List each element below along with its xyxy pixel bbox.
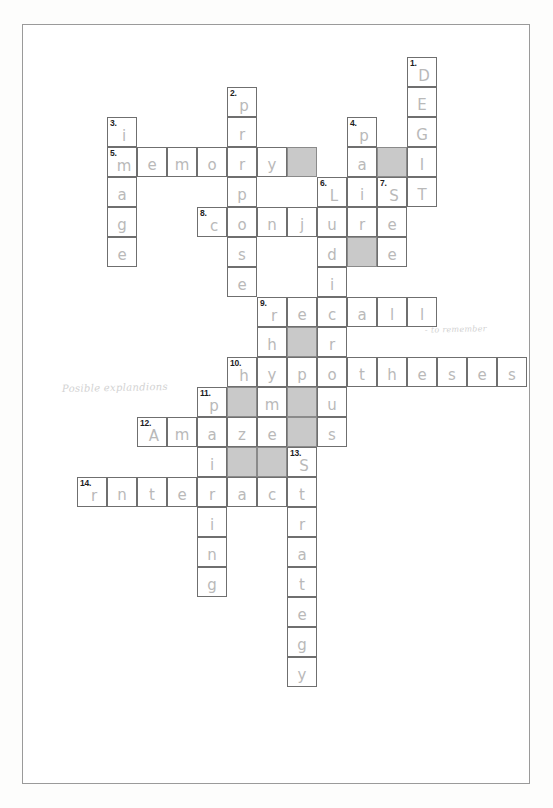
cell-letter: i bbox=[198, 508, 226, 536]
crossword-cell[interactable]: y bbox=[287, 657, 317, 687]
crossword-cell[interactable]: 2.p bbox=[227, 87, 257, 117]
crossword-cell[interactable]: a bbox=[227, 477, 257, 507]
crossword-cell[interactable]: 1.D bbox=[407, 57, 437, 87]
crossword-cell[interactable]: 11.p bbox=[197, 387, 227, 417]
crossword-cell[interactable]: s bbox=[497, 357, 527, 387]
cell-letter: r bbox=[78, 478, 106, 506]
cell-letter: g bbox=[288, 628, 316, 656]
crossword-cell[interactable]: 5.m bbox=[107, 147, 137, 177]
crossword-cell[interactable]: 12.A bbox=[137, 417, 167, 447]
crossword-cell[interactable]: s bbox=[317, 417, 347, 447]
crossword-cell[interactable]: a bbox=[107, 177, 137, 207]
crossword-cell[interactable]: 6.L bbox=[317, 177, 347, 207]
crossword-cell[interactable]: e bbox=[287, 597, 317, 627]
crossword-cell[interactable]: a bbox=[347, 297, 377, 327]
crossword-cell[interactable]: r bbox=[197, 477, 227, 507]
crossword-cell[interactable]: h bbox=[377, 357, 407, 387]
crossword-cell[interactable]: 7.S bbox=[377, 177, 407, 207]
crossword-cell[interactable]: I bbox=[407, 147, 437, 177]
crossword-cell[interactable]: e bbox=[467, 357, 497, 387]
crossword-cell[interactable]: u bbox=[317, 207, 347, 237]
cell-letter: h bbox=[378, 358, 406, 386]
crossword-cell[interactable]: 10.h bbox=[227, 357, 257, 387]
cell-letter: p bbox=[228, 178, 256, 206]
crossword-cell[interactable]: 14.r bbox=[77, 477, 107, 507]
crossword-cell[interactable]: r bbox=[317, 327, 347, 357]
crossword-cell[interactable]: g bbox=[287, 627, 317, 657]
crossword-cell[interactable]: r bbox=[287, 507, 317, 537]
crossword-cell[interactable]: a bbox=[287, 537, 317, 567]
crossword-cell[interactable]: l bbox=[407, 297, 437, 327]
crossword-cell[interactable]: e bbox=[107, 237, 137, 267]
crossword-cell[interactable]: p bbox=[227, 177, 257, 207]
crossword-cell[interactable]: i bbox=[347, 177, 377, 207]
crossword-cell[interactable]: e bbox=[407, 357, 437, 387]
crossword-cell[interactable]: r bbox=[227, 147, 257, 177]
crossword-cell[interactable]: e bbox=[377, 207, 407, 237]
crossword-cell[interactable]: e bbox=[137, 147, 167, 177]
crossword-cell[interactable]: j bbox=[287, 207, 317, 237]
crossword-cell[interactable]: p bbox=[287, 357, 317, 387]
crossword-cell[interactable]: n bbox=[197, 537, 227, 567]
cell-letter: p bbox=[228, 88, 256, 116]
crossword-cell[interactable]: G bbox=[407, 117, 437, 147]
crossword-cell[interactable]: t bbox=[347, 357, 377, 387]
crossword-cell[interactable]: m bbox=[257, 387, 287, 417]
cell-letter: e bbox=[228, 268, 256, 296]
cell-letter: e bbox=[468, 358, 496, 386]
crossword-cell[interactable]: n bbox=[107, 477, 137, 507]
cell-letter: u bbox=[318, 388, 346, 416]
crossword-cell[interactable]: E bbox=[407, 87, 437, 117]
crossword-cell[interactable]: r bbox=[347, 207, 377, 237]
crossword-cell[interactable]: t bbox=[137, 477, 167, 507]
crossword-cell[interactable]: s bbox=[227, 237, 257, 267]
crossword-cell[interactable]: u bbox=[317, 387, 347, 417]
crossword-cell[interactable]: t bbox=[287, 567, 317, 597]
crossword-cell[interactable]: c bbox=[257, 477, 287, 507]
crossword-cell[interactable]: a bbox=[347, 147, 377, 177]
cell-letter: S bbox=[288, 448, 316, 476]
crossword-cell[interactable]: t bbox=[287, 477, 317, 507]
crossword-cell[interactable]: l bbox=[377, 297, 407, 327]
crossword-cell[interactable]: o bbox=[197, 147, 227, 177]
crossword-cell[interactable]: m bbox=[167, 147, 197, 177]
crossword-cell[interactable]: 4.p bbox=[347, 117, 377, 147]
crossword-cell[interactable]: 3.i bbox=[107, 117, 137, 147]
crossword-cell[interactable]: e bbox=[287, 297, 317, 327]
cell-letter: s bbox=[438, 358, 466, 386]
cell-letter: i bbox=[318, 268, 346, 296]
crossword-cell[interactable]: T bbox=[407, 177, 437, 207]
crossword-cell[interactable]: n bbox=[257, 207, 287, 237]
crossword-cell[interactable]: s bbox=[437, 357, 467, 387]
crossword-cell[interactable]: o bbox=[317, 357, 347, 387]
crossword-cell[interactable]: 13.S bbox=[287, 447, 317, 477]
crossword-cell[interactable]: i bbox=[197, 447, 227, 477]
cell-letter: s bbox=[498, 358, 526, 386]
cell-letter: o bbox=[198, 148, 226, 176]
crossword-cell[interactable]: a bbox=[197, 417, 227, 447]
crossword-cell[interactable]: i bbox=[317, 267, 347, 297]
crossword-cell[interactable]: d bbox=[317, 237, 347, 267]
crossword-cell[interactable]: y bbox=[257, 357, 287, 387]
crossword-cell[interactable]: g bbox=[197, 567, 227, 597]
crossword-cell[interactable]: e bbox=[167, 477, 197, 507]
annotation-to-remember: - to remember bbox=[425, 324, 487, 335]
crossword-cell[interactable]: o bbox=[227, 207, 257, 237]
crossword-cell[interactable]: i bbox=[197, 507, 227, 537]
crossword-cell[interactable]: m bbox=[167, 417, 197, 447]
cell-letter: p bbox=[198, 388, 226, 416]
cell-letter: t bbox=[288, 568, 316, 596]
crossword-cell[interactable]: z bbox=[227, 417, 257, 447]
crossword-cell[interactable]: e bbox=[227, 267, 257, 297]
crossword-cell[interactable]: 9.r bbox=[257, 297, 287, 327]
cell-letter: u bbox=[318, 208, 346, 236]
crossword-cell[interactable]: g bbox=[107, 207, 137, 237]
cell-letter: r bbox=[288, 508, 316, 536]
crossword-cell[interactable]: e bbox=[257, 417, 287, 447]
crossword-cell[interactable]: y bbox=[257, 147, 287, 177]
crossword-cell[interactable]: 8.c bbox=[197, 207, 227, 237]
crossword-cell[interactable]: h bbox=[257, 327, 287, 357]
crossword-cell[interactable]: e bbox=[377, 237, 407, 267]
crossword-cell[interactable]: r bbox=[227, 117, 257, 147]
crossword-cell[interactable]: c bbox=[317, 297, 347, 327]
